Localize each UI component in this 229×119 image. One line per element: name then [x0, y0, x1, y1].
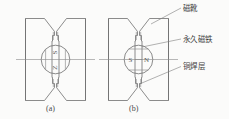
figure-canvas: S Z S — N [0, 0, 229, 119]
leader-line-pole-shoe [151, 8, 181, 24]
pole-label-b-0: S [129, 56, 133, 64]
pole-label-b-1: N [144, 56, 149, 64]
callout-label-pole-shoe: 磁靴 [183, 4, 198, 13]
callout-label-permanent-magnet: 永久磁铁 [183, 35, 212, 44]
magnet-pole-shoe-diagram: S Z S — N [0, 0, 229, 119]
leader-line-permanent-magnet [142, 39, 181, 47]
caption-diagram-a: (a) [46, 104, 55, 113]
diagram-a: S Z [16, 19, 95, 101]
pole-dash-b: — [134, 55, 143, 63]
caption-diagram-b: (b) [129, 104, 138, 113]
callout-label-copper-braze-layer: 铜焊层 [183, 62, 205, 71]
diagram-b: S — N [99, 19, 178, 101]
leader-line-copper-braze [140, 67, 182, 85]
pole-label-a-0: S [51, 50, 59, 54]
pole-label-a-1: Z [51, 65, 59, 69]
